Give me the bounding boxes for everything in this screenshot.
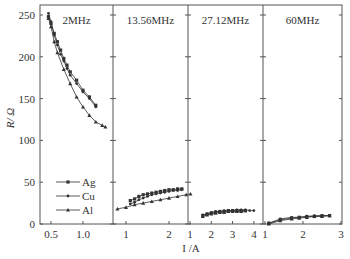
y-tick-label: 200 bbox=[19, 51, 36, 63]
ag-marker bbox=[75, 79, 78, 82]
al-line bbox=[48, 18, 105, 127]
ag-marker bbox=[133, 197, 136, 200]
cu-marker bbox=[82, 91, 85, 94]
panel-label: 2MHz bbox=[62, 14, 90, 26]
cu-marker bbox=[69, 74, 72, 77]
x-tick-label: 1 bbox=[187, 228, 193, 240]
cu-marker bbox=[67, 195, 70, 198]
cu-marker bbox=[129, 203, 132, 206]
y-tick-label: 0 bbox=[30, 218, 36, 230]
al-marker bbox=[62, 67, 66, 71]
legend: AgCuAl bbox=[56, 176, 96, 216]
cu-marker bbox=[253, 209, 256, 212]
cu-marker bbox=[88, 97, 91, 100]
panel-label: 13.56MHz bbox=[127, 14, 174, 26]
legend-label-ag: Ag bbox=[82, 176, 96, 188]
ag-marker bbox=[66, 180, 69, 183]
x-tick-label: 2 bbox=[166, 228, 172, 240]
panel-label: 27.12MHz bbox=[202, 14, 249, 26]
ag-marker bbox=[129, 199, 132, 202]
al-marker bbox=[55, 51, 59, 55]
cu-marker bbox=[159, 192, 162, 195]
al-marker bbox=[68, 82, 72, 86]
legend-label-cu: Cu bbox=[82, 190, 95, 202]
resistance-vs-current-chart: 050100150200250R/ ΩI /A2MHz0.51.013.56MH… bbox=[0, 0, 350, 259]
cu-marker bbox=[142, 197, 145, 200]
cu-marker bbox=[150, 193, 153, 196]
panel-13-56mhz: 13.56MHz12 bbox=[113, 5, 193, 240]
x-tick-label: 3 bbox=[230, 228, 236, 240]
cu-marker bbox=[94, 106, 97, 109]
y-tick-label: 50 bbox=[24, 176, 36, 188]
cu-marker bbox=[181, 188, 184, 191]
panel-label: 60MHz bbox=[286, 14, 320, 26]
x-axis-label: I /A bbox=[182, 242, 199, 254]
panel-60mhz: 60MHz123 bbox=[262, 5, 344, 240]
x-tick-label: 2 bbox=[209, 228, 215, 240]
chart-svg: 050100150200250R/ ΩI /A2MHz0.51.013.56MH… bbox=[0, 0, 350, 259]
cu-marker bbox=[138, 198, 141, 201]
legend-label-al: Al bbox=[82, 204, 93, 216]
y-tick-label: 250 bbox=[19, 9, 36, 21]
cu-marker bbox=[56, 44, 59, 47]
y-tick-label: 150 bbox=[19, 93, 36, 105]
x-tick-label: 1 bbox=[262, 228, 268, 240]
cu-marker bbox=[172, 189, 175, 192]
cu-marker bbox=[163, 191, 166, 194]
cu-marker bbox=[47, 12, 50, 15]
cu-marker bbox=[248, 209, 251, 212]
x-tick-label: 1 bbox=[123, 228, 129, 240]
cu-marker bbox=[75, 82, 78, 85]
al-marker bbox=[75, 95, 79, 99]
al-marker bbox=[189, 192, 193, 196]
x-tick-label: 1.0 bbox=[76, 228, 90, 240]
cu-marker bbox=[62, 60, 65, 63]
cu-marker bbox=[155, 193, 158, 196]
ag-marker bbox=[137, 195, 140, 198]
x-tick-label: 0.5 bbox=[44, 228, 58, 240]
panel-2mhz: 2MHz0.51.0 bbox=[44, 12, 113, 240]
cu-line bbox=[48, 13, 95, 107]
ag-line bbox=[48, 17, 95, 106]
cu-marker bbox=[168, 190, 171, 193]
panel-27-12mhz: 27.12MHz1234 bbox=[187, 5, 263, 240]
cu-marker bbox=[66, 67, 69, 70]
y-tick-label: 100 bbox=[19, 134, 36, 146]
al-line bbox=[117, 194, 190, 209]
x-tick-label: 3 bbox=[338, 228, 344, 240]
al-marker bbox=[100, 123, 104, 127]
cu-marker bbox=[176, 189, 179, 192]
y-axis-label: R/ Ω bbox=[4, 108, 16, 130]
cu-marker bbox=[146, 195, 149, 198]
ag-marker bbox=[142, 193, 145, 196]
x-tick-label: 4 bbox=[251, 228, 257, 240]
x-tick-label: 2 bbox=[300, 228, 306, 240]
cu-marker bbox=[59, 53, 62, 56]
